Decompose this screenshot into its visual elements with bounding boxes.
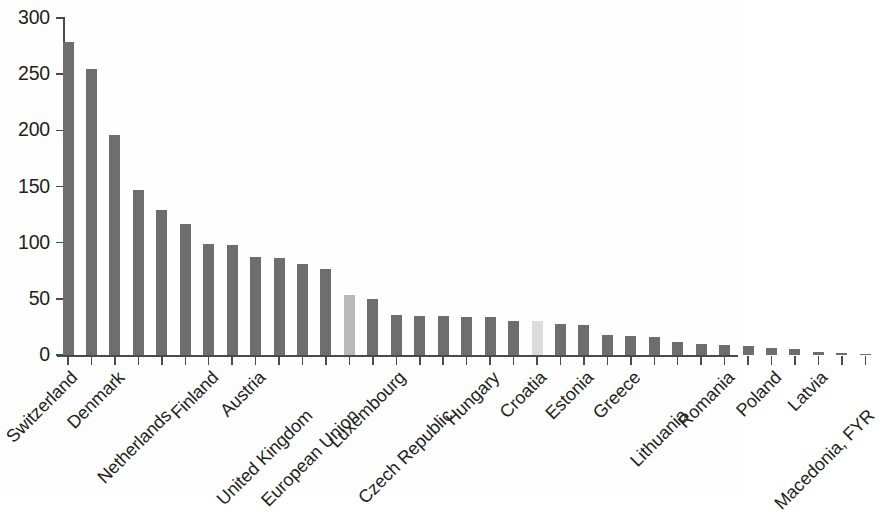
x-axis-tick (138, 356, 140, 365)
x-axis-tick (114, 356, 116, 365)
bar (156, 210, 167, 355)
bar (813, 352, 824, 355)
x-axis-tick (466, 356, 468, 365)
x-axis-tick (607, 356, 609, 365)
x-axis-tick (302, 356, 304, 365)
bar (719, 345, 730, 355)
bar (578, 325, 589, 355)
x-axis-tick (161, 356, 163, 365)
x-axis-tick (560, 356, 562, 365)
bar (696, 344, 707, 355)
bar (227, 245, 238, 355)
bar (602, 335, 613, 355)
x-axis-tick (700, 356, 702, 365)
bar (672, 342, 683, 355)
x-axis-tick (208, 356, 210, 365)
x-axis-tick (536, 356, 538, 365)
x-axis-tick (818, 356, 820, 365)
bar (180, 224, 191, 355)
x-axis-tick (583, 356, 585, 365)
x-axis-tick (724, 356, 726, 365)
x-axis-tick (396, 356, 398, 365)
bar (63, 42, 74, 355)
x-axis-tick (372, 356, 374, 365)
x-axis-tick (442, 356, 444, 365)
bar (344, 295, 355, 355)
bar (461, 317, 472, 355)
bar (109, 135, 120, 355)
x-axis-tick (67, 356, 69, 365)
bar (274, 258, 285, 355)
x-axis-line (57, 355, 738, 357)
bar (508, 321, 519, 355)
bar (649, 337, 660, 355)
x-axis-tick (865, 356, 867, 365)
bar (555, 324, 566, 355)
bar (625, 336, 636, 355)
bar (789, 349, 800, 355)
x-axis-tick (419, 356, 421, 365)
bar (250, 257, 261, 355)
x-axis-tick (747, 356, 749, 365)
bar (133, 190, 144, 355)
bar (485, 317, 496, 355)
x-axis-tick (489, 356, 491, 365)
x-axis-tick (654, 356, 656, 365)
x-axis-tick (349, 356, 351, 365)
x-axis-tick (185, 356, 187, 365)
x-axis-tick (91, 356, 93, 365)
bar (438, 316, 449, 355)
x-axis-tick (325, 356, 327, 365)
bar (836, 353, 847, 355)
x-axis-tick (513, 356, 515, 365)
x-axis-tick (677, 356, 679, 365)
bar (743, 346, 754, 355)
x-axis-tick (231, 356, 233, 365)
bars-layer (0, 0, 741, 355)
bar (297, 264, 308, 355)
bar (414, 316, 425, 355)
bar (367, 299, 378, 355)
x-axis-tick (278, 356, 280, 365)
x-axis-tick (771, 356, 773, 365)
bar (203, 244, 214, 355)
x-axis-tick (841, 356, 843, 365)
bar (391, 315, 402, 355)
x-axis-tick (794, 356, 796, 365)
x-axis-tick (630, 356, 632, 365)
bar (766, 348, 777, 355)
bar (532, 321, 543, 355)
bar (86, 69, 97, 355)
bar (320, 269, 331, 355)
bar (860, 354, 871, 356)
x-axis-tick (255, 356, 257, 365)
